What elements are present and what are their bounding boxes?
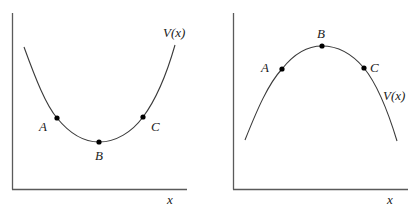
- left-label-b: B: [95, 148, 103, 163]
- right-curve-label: V(x): [383, 88, 405, 103]
- left-curve-label: V(x): [163, 25, 185, 40]
- right-point-a: [279, 66, 284, 71]
- left-panel: V(x) A B C x: [12, 13, 187, 207]
- left-point-b: [96, 139, 101, 144]
- left-label-c: C: [151, 119, 160, 134]
- left-point-a: [54, 115, 59, 120]
- right-x-axis-label: x: [386, 192, 393, 207]
- right-label-a: A: [260, 60, 269, 75]
- right-point-c: [361, 65, 366, 70]
- left-label-a: A: [38, 119, 47, 134]
- right-point-b: [319, 43, 324, 48]
- left-x-axis-label: x: [166, 192, 173, 207]
- left-point-c: [140, 114, 145, 119]
- right-panel: A B C V(x) x: [233, 13, 408, 207]
- diagram-canvas: V(x) A B C x A B C V(x) x: [0, 0, 419, 213]
- right-label-b: B: [317, 26, 325, 41]
- right-label-c: C: [370, 60, 379, 75]
